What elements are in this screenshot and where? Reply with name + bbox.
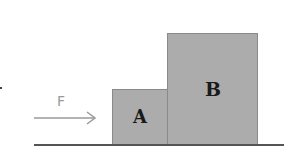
force-label: F — [57, 93, 65, 109]
block-b-label: B — [205, 78, 221, 100]
ground-line — [34, 144, 284, 146]
block-a: A — [112, 89, 169, 145]
force-arrow-icon — [32, 110, 100, 126]
block-b: B — [167, 33, 258, 145]
block-a-label: A — [133, 106, 147, 127]
stray-dot — [0, 87, 2, 89]
